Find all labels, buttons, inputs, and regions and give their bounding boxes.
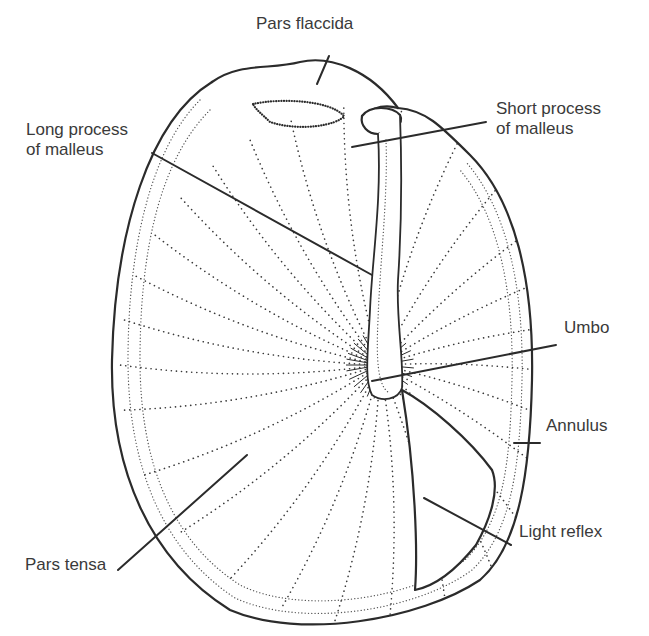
label-pars-flaccida: Pars flaccida <box>256 14 353 34</box>
label-short-process-of-malleus: Short process of malleus <box>496 99 601 139</box>
radial-fiber <box>380 255 616 365</box>
pars-flaccida-pocket <box>253 101 344 127</box>
radial-fiber <box>124 365 380 410</box>
leader-line-long-process <box>152 153 372 275</box>
radial-fiber <box>181 198 380 365</box>
label-pars-tensa: Pars tensa <box>25 555 106 575</box>
radial-fiber <box>380 152 529 365</box>
label-long-process-of-malleus: Long process of malleus <box>26 120 128 160</box>
radial-fiber <box>144 365 380 475</box>
radial-fiber <box>335 365 380 621</box>
radial-fiber <box>181 365 380 532</box>
radial-fiber <box>283 365 380 606</box>
malleus-handle <box>367 115 402 399</box>
label-umbo: Umbo <box>564 318 609 338</box>
radial-fiber <box>231 365 380 578</box>
label-annulus: Annulus <box>546 416 607 436</box>
radial-fiber <box>124 320 380 365</box>
radial-fiber <box>120 365 380 374</box>
leader-line-pars-tensa <box>118 455 247 570</box>
radial-fiber <box>380 365 394 625</box>
radial-fiber <box>250 140 380 365</box>
radial-fiber <box>136 276 380 365</box>
radial-fiber <box>291 121 380 365</box>
radial-fiber <box>380 364 639 388</box>
label-light-reflex: Light reflex <box>519 522 602 542</box>
radial-fiber <box>155 235 380 365</box>
radial-fiber <box>380 198 579 365</box>
